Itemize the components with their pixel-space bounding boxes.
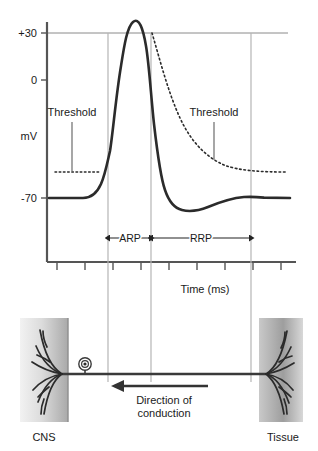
cns-block [20,318,68,422]
threshold-label-right: Threshold [190,106,239,118]
y-label-plus30: +30 [18,27,37,39]
x-axis-title: Time (ms) [180,283,229,295]
nerve-conduction-diagram: Direction of conduction CNS Tissue [20,318,303,443]
y-axis-title: mV [21,130,38,142]
y-label-zero: 0 [31,74,37,86]
direction-label-line2: conduction [137,407,190,419]
arp-label: ARP [119,232,141,244]
threshold-label-left: Threshold [48,106,97,118]
direction-label-line1: Direction of [136,394,193,406]
cns-label: CNS [32,431,55,443]
figure-canvas: +30 0 -70 mV Time (ms) Threshold Thresho… [0,0,318,451]
x-axis-ticks [57,262,281,270]
threshold-dotted-decay [152,33,286,172]
tissue-label: Tissue [267,431,299,443]
electrode-icon [79,358,91,374]
action-potential-figure: +30 0 -70 mV Time (ms) Threshold Thresho… [0,0,318,451]
rrp-label: RRP [190,232,212,244]
y-label-minus70: -70 [21,192,37,204]
